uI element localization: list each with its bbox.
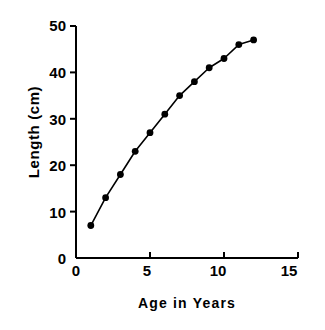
data-point <box>117 171 124 178</box>
tick-marks <box>70 26 298 258</box>
data-point <box>250 37 257 44</box>
data-series <box>87 37 257 229</box>
data-point <box>132 148 139 155</box>
axes <box>76 26 298 258</box>
data-point <box>191 78 198 85</box>
data-point <box>176 92 183 99</box>
data-point <box>221 55 228 62</box>
data-point <box>147 129 154 136</box>
data-point <box>235 41 242 48</box>
data-point <box>206 64 213 71</box>
series-line-0 <box>91 40 254 226</box>
data-point <box>87 222 94 229</box>
data-point <box>102 194 109 201</box>
data-point <box>161 111 168 118</box>
plot-area <box>0 0 325 330</box>
chart-figure: 50 40 30 20 10 0 0 5 10 15 Length (cm) A… <box>0 0 325 330</box>
